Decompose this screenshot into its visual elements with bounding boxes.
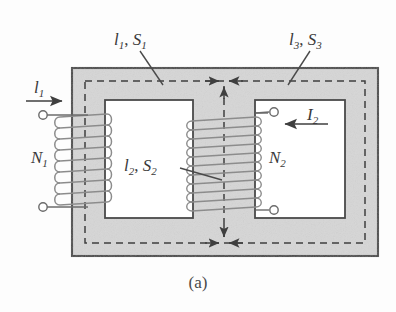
- primary-terminal-bottom[interactable]: [39, 203, 47, 211]
- label-l1-s1: l1, S1: [114, 30, 147, 51]
- secondary-terminal-top[interactable]: [270, 108, 278, 116]
- label-turns-n1: N1: [30, 148, 48, 169]
- transformer-magnetic-circuit-diagram: l1, S1 l3, S3 l2, S2 l1 I2 N1 N2 (a): [0, 0, 396, 312]
- secondary-lead-top-run: [256, 112, 269, 113]
- primary-terminal-top[interactable]: [39, 111, 47, 119]
- transformer-core: [72, 68, 378, 256]
- label-current-l1: l1: [34, 78, 44, 99]
- winding-primary-loops: [55, 117, 60, 205]
- secondary-terminal-bottom[interactable]: [270, 206, 278, 214]
- figure-container: l1, S1 l3, S3 l2, S2 l1 I2 N1 N2 (a): [0, 0, 396, 312]
- figure-caption: (a): [189, 273, 208, 292]
- label-l3-s3: l3, S3: [289, 30, 322, 51]
